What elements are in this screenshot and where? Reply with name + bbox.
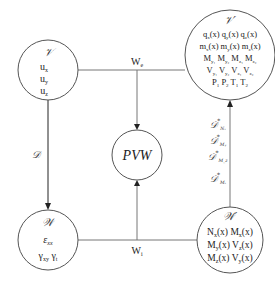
node-wprime-row-1: Nx(x) Mx(x) (207, 227, 253, 238)
edge-dstar-label-2: 𝒟*Mᵧ (210, 133, 227, 147)
pvw-diagram: 𝒱 ux uy uz 𝒱′ qx(x) qy(x) qz(x) mx(x) my… (0, 0, 275, 287)
node-wprime-title: 𝒲′ (223, 210, 238, 223)
arrow-up-icon (227, 100, 233, 107)
node-vprime-row-m: mx(x) my(x) mz(x) (199, 41, 260, 52)
node-vprime-title: 𝒱′ (224, 14, 237, 27)
node-vprime-row-q: qx(x) qy(x) qz(x) (203, 29, 257, 40)
arrow-down-icon (134, 124, 140, 130)
node-wprime-row-3: Mz(x) Vy(x) (207, 253, 252, 264)
arrow-down-icon (45, 203, 51, 210)
node-pvw-label: PVW (122, 148, 153, 163)
node-wprime-row-2: My(x) Vz(x) (207, 240, 252, 251)
arrow-up-icon (134, 180, 140, 186)
edge-dstar-label-4: 𝒟*Mₓ (210, 171, 227, 185)
edge-d-label: 𝒟 (32, 149, 42, 160)
edge-we-label: We (131, 56, 143, 68)
edge-wi-label: Wi (131, 245, 142, 257)
edge-dstar-label-3: 𝒟*M_z (208, 149, 228, 164)
node-w-title: 𝒲 (42, 216, 56, 229)
edge-dstar-label-1: 𝒟*Nₓ (210, 117, 226, 131)
